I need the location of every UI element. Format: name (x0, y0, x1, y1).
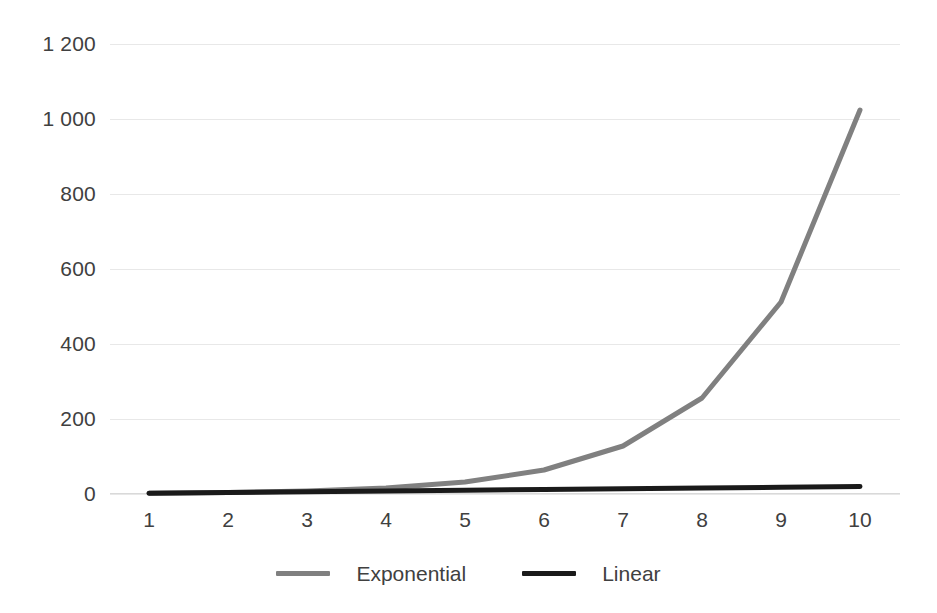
y-tick-label: 800 (0, 183, 96, 204)
y-tick-label: 1 200 (0, 33, 96, 54)
line-chart: 1 2001 0008006004002000 12345678910 Expo… (0, 0, 937, 613)
legend-item-exponential[interactable]: Exponential (276, 563, 466, 584)
x-tick-label: 6 (514, 508, 574, 532)
y-tick-label: 600 (0, 258, 96, 279)
x-tick-label: 4 (356, 508, 416, 532)
legend-label: Linear (602, 563, 660, 584)
x-tick-label: 1 (119, 508, 179, 532)
series-line-exponential (149, 110, 860, 493)
y-tick-label: 400 (0, 333, 96, 354)
x-tick-label: 9 (751, 508, 811, 532)
legend-label: Exponential (356, 563, 466, 584)
legend-item-linear[interactable]: Linear (522, 563, 660, 584)
legend-swatch-icon (522, 571, 576, 576)
plot-area (110, 44, 900, 494)
series-line-linear (149, 487, 860, 494)
y-tick-label: 1 000 (0, 108, 96, 129)
x-tick-label: 10 (830, 508, 890, 532)
y-axis: 1 2001 0008006004002000 (0, 0, 96, 613)
x-tick-label: 3 (277, 508, 337, 532)
chart-legend: ExponentialLinear (0, 556, 937, 590)
x-tick-label: 7 (593, 508, 653, 532)
x-tick-label: 5 (435, 508, 495, 532)
y-tick-label: 200 (0, 408, 96, 429)
y-tick-label: 0 (0, 483, 96, 504)
legend-swatch-icon (276, 571, 330, 576)
x-axis: 12345678910 (110, 508, 900, 538)
x-tick-label: 8 (672, 508, 732, 532)
x-tick-label: 2 (198, 508, 258, 532)
series-group (110, 44, 900, 494)
